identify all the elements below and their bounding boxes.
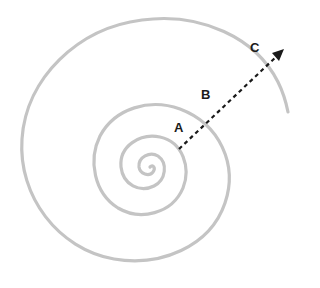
- label-b: B: [201, 87, 210, 102]
- spiral-curve: [22, 19, 288, 261]
- dashed-arrow-line: [179, 55, 278, 149]
- label-c: C: [250, 40, 259, 55]
- label-a: A: [174, 120, 183, 135]
